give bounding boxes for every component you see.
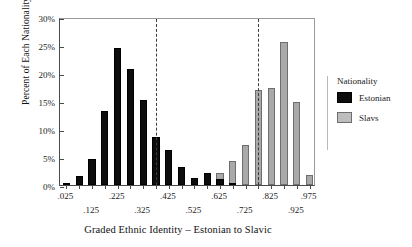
x-axis-tick-325: .325 bbox=[134, 205, 150, 215]
x-axis-tickmark-0.625 bbox=[220, 185, 221, 189]
y-axis-title: Percent of Each Nationality bbox=[21, 0, 31, 141]
y-axis-tick-15: 15% bbox=[39, 98, 61, 108]
bar-estonian-0.425 bbox=[165, 150, 172, 185]
bar-slavs-0.675 bbox=[229, 161, 236, 185]
x-axis-tickmark-0.775 bbox=[258, 185, 259, 189]
bar-estonian-0.175 bbox=[101, 111, 108, 185]
estonian-cutline bbox=[156, 19, 157, 185]
x-axis-tickmark-0.175 bbox=[105, 185, 106, 189]
bar-estonian-0.475 bbox=[178, 167, 185, 185]
x-axis-tick-975: .975 bbox=[301, 191, 317, 201]
bar-estonian-0.525 bbox=[191, 178, 198, 185]
x-axis-tickmark-0.725 bbox=[246, 185, 247, 189]
bar-slavs-0.975 bbox=[306, 175, 313, 185]
legend-label-slavs: Slavs bbox=[359, 113, 379, 123]
x-axis-tickmark-0.925 bbox=[297, 185, 298, 189]
legend-item-slavs[interactable]: Slavs bbox=[337, 112, 412, 123]
x-axis-title-text: Graded Ethnic Identity – Estonian to Sla… bbox=[84, 224, 271, 235]
legend-title: Nationality bbox=[337, 76, 412, 86]
y-axis-tick-5: 5% bbox=[43, 154, 60, 164]
x-axis-tickmark-0.825 bbox=[271, 185, 272, 189]
x-axis-tickmark-0.125 bbox=[92, 185, 93, 189]
x-axis-tick-925: .925 bbox=[288, 205, 304, 215]
bar-estonian-0.275 bbox=[127, 69, 134, 185]
x-axis-tick-825: .825 bbox=[262, 191, 278, 201]
x-axis-tickmark-0.075 bbox=[79, 185, 80, 189]
bar-slavs-0.725 bbox=[242, 145, 249, 185]
bar-estonian-0.125 bbox=[88, 159, 95, 185]
bar-estonian-0.225 bbox=[114, 48, 121, 185]
x-axis-tickmark-0.225 bbox=[118, 185, 119, 189]
x-axis-tick-225: .225 bbox=[109, 191, 125, 201]
legend-swatch-slavs bbox=[337, 112, 352, 123]
plot-area: 0%5%10%15%20%25%30% bbox=[59, 18, 315, 186]
x-axis-tick-725: .725 bbox=[237, 205, 253, 215]
y-axis-tick-10: 10% bbox=[39, 126, 61, 136]
legend-swatch-estonian bbox=[337, 92, 352, 103]
x-axis-tickmark-0.875 bbox=[284, 185, 285, 189]
bar-estonian-0.325 bbox=[140, 100, 147, 185]
plot-inner: 0%5%10%15%20%25%30% bbox=[60, 19, 314, 185]
x-axis-tickmark-0.375 bbox=[156, 185, 157, 189]
x-axis-tickmark-0.525 bbox=[194, 185, 195, 189]
x-axis-tickmark-0.025 bbox=[66, 185, 67, 189]
x-axis-tickmark-0.325 bbox=[143, 185, 144, 189]
bar-estonian-0.075 bbox=[76, 176, 83, 185]
x-axis-tickmark-0.675 bbox=[233, 185, 234, 189]
x-axis-tickmark-0.425 bbox=[169, 185, 170, 189]
bar-estonian-0.575 bbox=[204, 173, 211, 185]
y-axis-tick-25: 25% bbox=[39, 42, 61, 52]
x-axis-tickmark-0.975 bbox=[310, 185, 311, 189]
x-axis-tick-525: .525 bbox=[186, 205, 202, 215]
y-axis-tick-20: 20% bbox=[39, 70, 61, 80]
chart-root: Percent of Each Nationality 0%5%10%15%20… bbox=[0, 0, 412, 247]
legend-label-estonian: Estonian bbox=[359, 93, 391, 103]
x-axis-tickmark-0.475 bbox=[182, 185, 183, 189]
x-axis-tick-125: .125 bbox=[83, 205, 99, 215]
slavic-cutline bbox=[258, 19, 259, 185]
bar-slavs-0.825 bbox=[268, 88, 275, 185]
y-axis-tick-30: 30% bbox=[39, 14, 61, 24]
x-axis-tick-425: .425 bbox=[160, 191, 176, 201]
x-axis-tickmark-0.275 bbox=[130, 185, 131, 189]
legend-item-estonian[interactable]: Estonian bbox=[337, 92, 412, 103]
x-axis-tickmark-0.575 bbox=[207, 185, 208, 189]
x-axis-title: Graded Ethnic Identity – Estonian to Sla… bbox=[0, 224, 412, 235]
legend: Nationality Estonian Slavs bbox=[327, 76, 412, 150]
bar-slavs-0.875 bbox=[280, 42, 287, 185]
x-axis-tick-025: .025 bbox=[58, 191, 74, 201]
x-axis-tick-625: .625 bbox=[211, 191, 227, 201]
bar-slavs-0.925 bbox=[293, 102, 300, 185]
